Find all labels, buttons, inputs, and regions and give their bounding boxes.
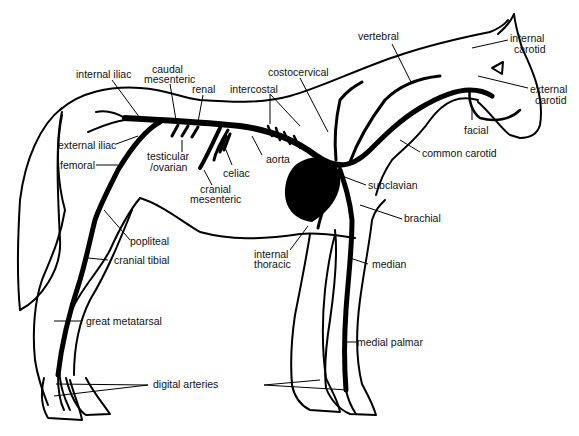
label-renal: renal bbox=[192, 83, 215, 95]
leader-costocervical bbox=[300, 78, 328, 132]
costocervical-artery bbox=[335, 82, 362, 160]
label-digital-arteries: digital arteries bbox=[153, 378, 218, 390]
leader-external-carotid bbox=[478, 76, 528, 88]
label-external-iliac: external iliac bbox=[58, 139, 116, 151]
label-cranial-mesenteric-2: mesenteric bbox=[190, 193, 241, 205]
label-internal-iliac: internal iliac bbox=[76, 68, 131, 80]
renal-branch bbox=[192, 127, 198, 137]
label-internal-carotid-2: carotid bbox=[514, 43, 546, 55]
leader-vertebral bbox=[392, 44, 412, 84]
label-costocervical: costocervical bbox=[268, 66, 329, 78]
subclavian-artery bbox=[340, 170, 352, 390]
label-cranial-tibial: cranial tibial bbox=[114, 254, 169, 266]
leader-aorta bbox=[252, 136, 262, 155]
label-femoral: femoral bbox=[60, 159, 95, 171]
label-median: median bbox=[372, 258, 407, 270]
label-facial: facial bbox=[464, 124, 489, 136]
label-caudal-mesenteric-2: mesenteric bbox=[144, 73, 195, 85]
heart bbox=[285, 158, 340, 222]
testicular-branch-2 bbox=[182, 126, 188, 136]
arteries bbox=[58, 76, 520, 414]
label-great-metatarsal: great metatarsal bbox=[86, 315, 162, 327]
testicular-branch-1 bbox=[172, 125, 178, 136]
label-intercostal: intercostal bbox=[230, 83, 278, 95]
leader-internal-carotid bbox=[472, 40, 508, 48]
internal-iliac-branch-1 bbox=[96, 111, 125, 118]
front-leg-2 bbox=[325, 200, 385, 415]
hind-hoof-2 bbox=[66, 378, 110, 415]
label-subclavian: subclavian bbox=[368, 179, 418, 191]
digital-artery-front bbox=[346, 390, 356, 414]
tail-outline bbox=[18, 108, 62, 310]
label-vertebral: vertebral bbox=[358, 30, 399, 42]
internal-iliac-branch-2 bbox=[88, 120, 125, 132]
label-common-carotid: common carotid bbox=[422, 147, 497, 159]
front-leg-1 bbox=[291, 234, 340, 412]
eye-outline bbox=[492, 62, 503, 74]
label-testicular-2: /ovarian bbox=[150, 161, 188, 173]
leader-caudal-mesenteric bbox=[170, 84, 176, 120]
label-external-carotid-2: carotid bbox=[535, 94, 567, 106]
leader-internal-thoracic bbox=[290, 226, 308, 250]
label-aorta: aorta bbox=[266, 153, 290, 165]
label-internal-thoracic-2: thoracic bbox=[254, 258, 291, 270]
leader-brachial bbox=[360, 205, 402, 219]
label-popliteal: popliteal bbox=[130, 235, 169, 247]
label-brachial: brachial bbox=[404, 212, 441, 224]
leader-intercostal-b bbox=[270, 94, 300, 126]
horse-artery-diagram: internal iliac caudal mesenteric renal i… bbox=[0, 0, 579, 436]
facial-artery bbox=[469, 90, 520, 120]
leader-digital-4 bbox=[264, 385, 348, 390]
label-celiac: celiac bbox=[223, 167, 250, 179]
label-medial-palmar: medial palmar bbox=[357, 336, 423, 348]
leader-digital-1 bbox=[56, 384, 148, 385]
leader-internal-iliac bbox=[112, 80, 140, 118]
